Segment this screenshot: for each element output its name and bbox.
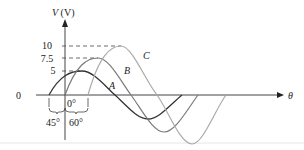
x-axis-label: θ	[288, 90, 293, 101]
zero-degree-label: 0°	[67, 98, 76, 109]
tick-label-5: 5	[51, 65, 56, 76]
curve-label-c: C	[143, 50, 150, 61]
phase-diagram: V (V) θ 0 10 7.5 5 0° 45° 60° A B C	[0, 0, 304, 150]
curve-label-b: B	[124, 65, 130, 76]
x-axis-arrow-icon	[277, 92, 284, 98]
origin-label: 0	[16, 90, 21, 101]
curve-label-a: A	[108, 80, 116, 91]
phase-label-45: 45°	[46, 117, 60, 128]
phase-label-60: 60°	[69, 117, 83, 128]
tick-label-7-5: 7.5	[41, 53, 54, 64]
y-axis-arrow-icon	[62, 19, 68, 27]
brace-45	[49, 108, 65, 114]
tick-label-10: 10	[42, 40, 52, 51]
y-axis-label: V (V)	[52, 7, 75, 19]
